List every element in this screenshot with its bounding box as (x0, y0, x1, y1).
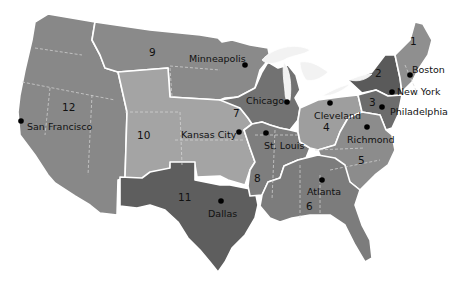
district-number-8: 8 (254, 172, 261, 184)
st-louis-marker-icon[interactable] (263, 130, 269, 136)
district-number-10: 10 (137, 129, 150, 141)
city-label-kansas-city: Kansas City (181, 129, 237, 140)
city-label-dallas: Dallas (208, 208, 237, 219)
atlanta-marker-icon[interactable] (319, 177, 325, 183)
district-number-5: 5 (358, 154, 365, 166)
san-francisco-marker-icon[interactable] (18, 118, 24, 124)
city-label-st-louis: St. Louis (264, 140, 304, 151)
city-label-new-york: New York (397, 86, 441, 97)
city-label-boston: Boston (412, 64, 445, 75)
city-label-cleveland: Cleveland (314, 110, 361, 121)
district-number-4: 4 (323, 121, 330, 133)
city-label-san-francisco: San Francisco (27, 121, 92, 132)
lake-erie (322, 84, 350, 96)
federal-reserve-map: 1 2 3 4 5 6 7 8 9 10 11 12 Boston New Yo… (0, 0, 457, 281)
district-1-region[interactable] (395, 22, 432, 92)
richmond-marker-icon[interactable] (364, 124, 370, 130)
district-number-7: 7 (233, 107, 240, 119)
philadelphia-marker-icon[interactable] (379, 104, 385, 110)
district-number-11: 11 (178, 191, 191, 203)
city-label-philadelphia: Philadelphia (390, 106, 448, 117)
district-number-3: 3 (369, 96, 376, 108)
district-number-2: 2 (375, 67, 382, 79)
dallas-marker-icon[interactable] (218, 198, 224, 204)
lake-huron (300, 62, 328, 81)
city-label-richmond: Richmond (347, 134, 395, 145)
district-number-12: 12 (62, 101, 75, 113)
kansas-city-marker-icon[interactable] (236, 129, 242, 135)
chicago-marker-icon[interactable] (284, 99, 290, 105)
district-number-6: 6 (306, 200, 313, 212)
district-number-9: 9 (149, 46, 156, 58)
district-number-1: 1 (410, 35, 417, 47)
city-label-chicago: Chicago (246, 95, 284, 106)
city-label-atlanta: Atlanta (307, 186, 341, 197)
city-label-minneapolis: Minneapolis (189, 53, 246, 64)
cleveland-marker-icon[interactable] (327, 100, 333, 106)
lake-superior (262, 46, 310, 63)
new-york-marker-icon[interactable] (389, 89, 395, 95)
